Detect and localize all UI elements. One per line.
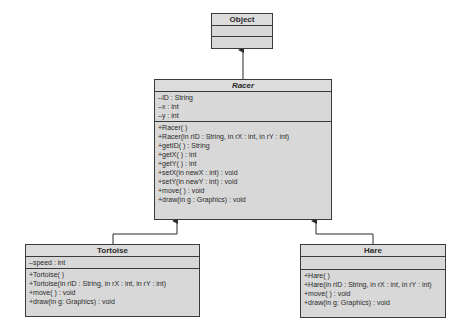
method: +move( ) : void	[158, 186, 328, 195]
tortoise-to-racer-arrow	[113, 221, 177, 244]
object-attributes	[212, 26, 272, 37]
racer-attributes: –ID : String –x : int –y : int	[155, 92, 331, 122]
method: +Racer( )	[158, 123, 328, 132]
method: +Tortoise(in rID : String, in rX : int, …	[29, 279, 196, 288]
class-name-hare: Hare	[301, 245, 445, 257]
method: +getY( ) : int	[158, 159, 328, 168]
tortoise-attributes: –speed : int	[26, 257, 199, 269]
method: +getX( ) : int	[158, 150, 328, 159]
class-name-racer: Racer	[155, 80, 331, 92]
hare-attributes	[301, 257, 445, 270]
hare-to-racer-arrow	[316, 221, 373, 244]
class-hare: Hare +Hare( ) +Hare(in rID : String, in …	[300, 244, 446, 318]
method: +Hare( )	[304, 271, 442, 280]
attribute: –y : int	[158, 111, 328, 120]
method: +draw(in g : Graphics) : void	[158, 195, 328, 204]
object-methods	[212, 37, 272, 48]
method: +move( ) : void	[29, 288, 196, 297]
hare-methods: +Hare( ) +Hare(in rID : String, in rX : …	[301, 270, 445, 308]
class-tortoise: Tortoise –speed : int +Tortoise( ) +Tort…	[25, 244, 200, 317]
method: +move( ) : void	[304, 289, 442, 298]
method: +Tortoise( )	[29, 270, 196, 279]
class-name-object: Object	[212, 14, 272, 26]
class-racer: Racer –ID : String –x : int –y : int +Ra…	[154, 79, 332, 220]
method: +setY(in newY : int) : void	[158, 177, 328, 186]
racer-methods: +Racer( ) +Racer(in rID : String, in rX …	[155, 122, 331, 205]
tortoise-methods: +Tortoise( ) +Tortoise(in rID : String, …	[26, 269, 199, 307]
attribute: –x : int	[158, 102, 328, 111]
method: +Hare(in rID : String, in rX : int, in r…	[304, 280, 442, 289]
method: +draw(in g: Graphics) : void	[29, 297, 196, 306]
class-name-tortoise: Tortoise	[26, 245, 199, 257]
attribute: –ID : String	[158, 93, 328, 102]
method: +Racer(in rID : String, in rX : int, in …	[158, 132, 328, 141]
attribute: –speed : int	[29, 258, 196, 267]
method: +setX(in newX : int) : void	[158, 168, 328, 177]
method: +getID( ) : String	[158, 141, 328, 150]
method: +draw(in g: Graphics) : void	[304, 298, 442, 307]
class-object: Object	[211, 13, 273, 49]
